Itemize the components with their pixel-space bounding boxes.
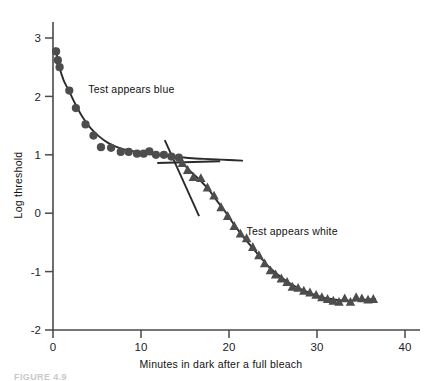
data-point-circle-16 bbox=[167, 152, 175, 160]
data-point-circle-14 bbox=[152, 151, 160, 159]
y-tick-label-4: -1 bbox=[31, 266, 41, 278]
data-point-circle-4 bbox=[72, 104, 80, 112]
data-point-circle-1 bbox=[54, 56, 62, 64]
data-point-triangle-27 bbox=[340, 293, 350, 302]
data-point-circle-6 bbox=[89, 131, 97, 139]
data-point-circle-9 bbox=[117, 148, 125, 156]
x-tick-label-4: 40 bbox=[399, 341, 412, 353]
figure-caption: FIGURE 4.9 bbox=[14, 372, 67, 381]
data-point-circle-10 bbox=[125, 148, 133, 156]
x-tick-label-0: 0 bbox=[50, 341, 56, 353]
axes: 3210-1-2010203040 bbox=[31, 22, 420, 353]
data-point-circle-7 bbox=[97, 143, 105, 151]
data-point-triangle-6 bbox=[216, 202, 226, 211]
y-tick-label-0: 3 bbox=[35, 32, 41, 44]
dark-adaptation-chart: 3210-1-2010203040 Minutes in dark after … bbox=[0, 0, 436, 381]
data-point-triangle-8 bbox=[230, 221, 240, 230]
branch-marker-lines bbox=[157, 140, 220, 216]
data-point-circle-15 bbox=[160, 151, 168, 159]
x-axis-title: Minutes in dark after a full bleach bbox=[140, 358, 303, 370]
x-tick-label-2: 20 bbox=[223, 341, 236, 353]
y-tick-label-5: -2 bbox=[31, 324, 41, 336]
data-point-circle-5 bbox=[81, 120, 89, 128]
axis-lines bbox=[53, 22, 420, 330]
data-point-triangle-7 bbox=[223, 211, 233, 220]
y-tick-label-3: 0 bbox=[35, 207, 41, 219]
figure-container: 3210-1-2010203040 Minutes in dark after … bbox=[0, 0, 436, 381]
data-point-circle-0 bbox=[52, 47, 60, 55]
chart-text-labels: Minutes in dark after a full bleachLog t… bbox=[12, 83, 338, 370]
horizontal-crossing-line bbox=[157, 161, 220, 163]
y-tick-label-1: 2 bbox=[35, 91, 41, 103]
annotation-0: Test appears blue bbox=[88, 83, 174, 95]
cone-branch-fit bbox=[56, 49, 243, 161]
data-point-circle-3 bbox=[65, 86, 73, 94]
y-axis-title: Log threshold bbox=[12, 152, 24, 219]
data-point-circle-8 bbox=[107, 144, 115, 152]
annotation-1: Test appears white bbox=[247, 225, 338, 237]
data-point-circle-2 bbox=[56, 63, 64, 71]
y-tick-label-2: 1 bbox=[35, 149, 41, 161]
x-tick-label-1: 10 bbox=[135, 341, 148, 353]
x-tick-label-3: 30 bbox=[311, 341, 324, 353]
